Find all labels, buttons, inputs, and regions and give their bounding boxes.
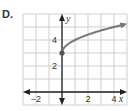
y-axis-up-arrow-icon bbox=[59, 14, 65, 21]
graph: −22424xy bbox=[0, 0, 132, 111]
x-tick-label: −2 bbox=[31, 94, 41, 104]
y-tick-label: 4 bbox=[52, 35, 57, 45]
y-axis-label: y bbox=[65, 13, 71, 24]
x-tick-label: 4 bbox=[111, 94, 116, 104]
curve-path bbox=[62, 25, 124, 53]
y-axis-down-arrow-icon bbox=[59, 98, 65, 105]
y-tick-label: 2 bbox=[52, 61, 57, 71]
x-axis-left-arrow-icon bbox=[23, 89, 30, 95]
start-point bbox=[59, 50, 64, 55]
x-axis-label: x bbox=[118, 93, 124, 104]
x-tick-label: 2 bbox=[85, 94, 90, 104]
